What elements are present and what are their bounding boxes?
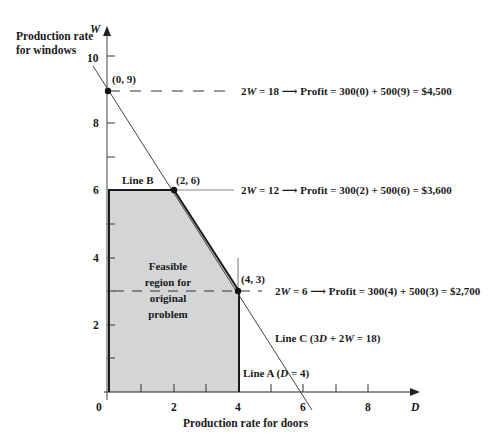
x-tick-label-4: 4 — [235, 401, 241, 413]
region-label-3: original — [150, 292, 187, 304]
objective-annotation-2700: 2W = 6 ⟶ Profit = 300(4) + 500(3) = $2,7… — [275, 285, 481, 298]
line-c-label: Line C (3D + 2W = 18) — [275, 332, 381, 345]
point-label-0-9: (0, 9) — [112, 73, 136, 86]
x-tick-label-0: 0 — [96, 401, 102, 413]
x-axis-arrow-icon — [410, 388, 420, 396]
objective-annotation-4500: 2W = 18 ⟶ Profit = 300(0) + 500(9) = $4,… — [241, 85, 452, 98]
x-axis-symbol: D — [410, 401, 420, 413]
point-4-3 — [235, 288, 241, 294]
y-axis-title-line1: Production rate — [16, 30, 93, 42]
y-axis-arrow-icon — [103, 26, 111, 36]
x-tick-label-6: 6 — [300, 401, 306, 413]
y-tick-label-10: 10 — [87, 52, 99, 64]
y-tick-label-2: 2 — [93, 319, 99, 331]
x-axis-title: Production rate for doors — [183, 417, 309, 429]
x-tick-label-8: 8 — [365, 401, 371, 413]
region-label-2: region for — [145, 276, 192, 288]
y-tick-label-6: 6 — [93, 184, 99, 196]
region-label-1: Feasible — [149, 260, 188, 272]
objective-annotation-3600: 2W = 12 ⟶ Profit = 300(2) + 500(6) = $3,… — [241, 184, 452, 197]
point-0-9 — [105, 88, 111, 94]
line-a-label: Line A (D = 4) — [243, 367, 310, 380]
x-tick-label-2: 2 — [171, 401, 177, 413]
y-tick-label-8: 8 — [93, 117, 99, 129]
line-b-label: Line B — [122, 174, 154, 186]
y-axis-title-line2: for windows — [16, 44, 77, 56]
linear-programming-chart: 0 2 4 6 8 D 2 4 6 8 10 W Production rate… — [0, 0, 496, 443]
point-label-2-6: (2, 6) — [176, 174, 200, 187]
point-label-4-3: (4, 3) — [241, 273, 265, 286]
region-label-4: problem — [148, 308, 188, 320]
point-2-6 — [171, 187, 177, 193]
y-tick-label-4: 4 — [93, 252, 99, 264]
